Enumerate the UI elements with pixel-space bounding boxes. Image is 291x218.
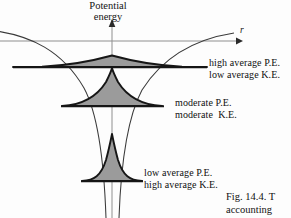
figure-caption-line2: accounting: [226, 203, 275, 216]
potential-energy-figure: Potentialenergy r high average P.E.low a…: [0, 0, 291, 218]
annotation-high-pe-line1: high average P.E.: [209, 57, 280, 69]
annotation-low-pe: low average P.E.high average K.E.: [144, 167, 218, 191]
x-axis-label: r: [240, 26, 244, 36]
y-axis-label: Potentialenergy: [66, 1, 150, 22]
figure-caption: Fig. 14.4. Taccounting: [226, 190, 275, 217]
figure-caption-line1: Fig. 14.4. T: [226, 190, 275, 203]
distribution-profile-moderate: [62, 68, 162, 106]
annotation-low-pe-line1: low average P.E.: [144, 167, 218, 179]
annotation-moderate-pe: moderate P.E.moderate K.E.: [175, 97, 237, 121]
annotation-moderate-pe-line1: moderate P.E.: [175, 97, 237, 109]
energy-level-high: [13, 56, 207, 68]
annotation-high-pe-line2: low average K.E.: [209, 69, 280, 81]
annotation-high-pe: high average P.E.low average K.E.: [209, 57, 280, 81]
annotation-moderate-pe-line2: moderate K.E.: [175, 109, 237, 121]
energy-level-low: [81, 134, 143, 181]
distribution-profile-high: [13, 56, 207, 68]
x-axis-arrowhead: [236, 38, 243, 45]
energy-level-moderate: [61, 68, 164, 106]
y-axis-label-line2: energy: [66, 12, 150, 23]
distribution-profile-low: [82, 134, 142, 181]
annotation-low-pe-line2: high average K.E.: [144, 179, 218, 191]
potential-curve-left-branch: [0, 31, 106, 218]
